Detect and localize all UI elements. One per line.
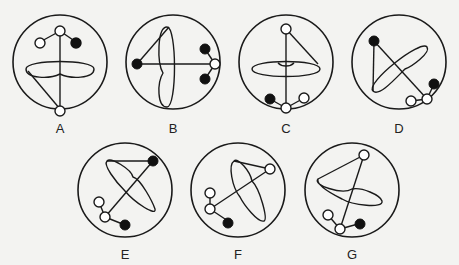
figure-label: A bbox=[10, 121, 110, 136]
hollow-node bbox=[35, 38, 45, 48]
hollow-node bbox=[94, 197, 104, 207]
hollow-node bbox=[281, 103, 291, 113]
hollow-node bbox=[299, 93, 309, 103]
triangle-edge bbox=[286, 29, 318, 64]
figure-b-drawing bbox=[123, 7, 223, 119]
hollow-node bbox=[406, 96, 416, 106]
figure-a-drawing bbox=[10, 7, 110, 119]
hollow-node bbox=[55, 26, 65, 36]
hollow-node bbox=[205, 188, 215, 198]
figure-a: A bbox=[10, 7, 110, 137]
hollow-node bbox=[422, 94, 432, 104]
filled-node bbox=[71, 38, 81, 48]
hollow-node bbox=[205, 204, 215, 214]
figure-d: D bbox=[349, 7, 449, 137]
figure-c-drawing bbox=[236, 7, 336, 119]
filled-node bbox=[223, 218, 233, 228]
filled-node bbox=[132, 59, 142, 69]
figure-g-drawing bbox=[302, 137, 402, 247]
outer-circle bbox=[352, 15, 446, 109]
figure-f: F bbox=[188, 137, 288, 265]
pinched-lens bbox=[231, 160, 265, 221]
hollow-node bbox=[359, 150, 369, 160]
hollow-node bbox=[323, 210, 333, 220]
main-axis-line bbox=[210, 169, 270, 209]
figure-label: D bbox=[349, 121, 449, 136]
filled-node bbox=[369, 36, 379, 46]
triangle-edge bbox=[373, 41, 374, 91]
hollow-node bbox=[55, 106, 65, 116]
figure-e: E bbox=[75, 137, 175, 265]
hollow-node bbox=[335, 224, 345, 234]
triangle-edge bbox=[137, 27, 169, 64]
hollow-node bbox=[265, 164, 275, 174]
figure-d-drawing bbox=[349, 7, 449, 119]
figure-c: C bbox=[236, 7, 336, 137]
figure-f-drawing bbox=[188, 137, 288, 247]
figure-b: B bbox=[123, 7, 223, 137]
figure-label: B bbox=[123, 121, 223, 136]
figure-label: C bbox=[236, 121, 336, 136]
filled-node bbox=[120, 220, 130, 230]
hollow-node bbox=[281, 24, 291, 34]
figure-label: E bbox=[75, 247, 175, 262]
figure-label: G bbox=[302, 247, 402, 262]
filled-node bbox=[200, 44, 210, 54]
filled-node bbox=[429, 79, 439, 89]
filled-node bbox=[200, 74, 210, 84]
pinched-lens bbox=[159, 27, 175, 107]
hollow-node bbox=[210, 59, 220, 69]
figure-label: F bbox=[188, 247, 288, 262]
filled-node bbox=[355, 219, 365, 229]
figure-e-drawing bbox=[75, 137, 175, 247]
hollow-node bbox=[100, 212, 110, 222]
filled-node bbox=[265, 94, 275, 104]
filled-node bbox=[148, 156, 158, 166]
figure-g: G bbox=[302, 137, 402, 265]
